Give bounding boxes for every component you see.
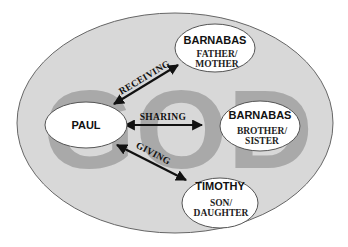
svg-text:SHARING: SHARING <box>140 112 187 122</box>
node-timothy: TIMOTHY SON/ DAUGHTER <box>182 178 258 228</box>
svg-text:PAUL: PAUL <box>71 119 100 131</box>
svg-text:SISTER: SISTER <box>245 136 279 146</box>
svg-text:BARNABAS: BARNABAS <box>184 34 247 46</box>
node-barnabas-parent: BARNABAS FATHER/ MOTHER <box>175 24 255 72</box>
svg-text:FATHER/: FATHER/ <box>197 49 238 59</box>
svg-text:SON/: SON/ <box>210 198 233 208</box>
relationship-diagram: GOD RECEIVING SHARING GIVING PAUL BARNAB… <box>0 0 348 247</box>
node-barnabas-sibling: BARNABAS BROTHER/ SISTER <box>220 101 300 151</box>
svg-text:BARNABAS: BARNABAS <box>229 109 292 121</box>
svg-text:DAUGHTER: DAUGHTER <box>194 208 249 218</box>
svg-text:BROTHER/: BROTHER/ <box>237 126 288 136</box>
node-paul: PAUL <box>45 102 127 148</box>
svg-text:TIMOTHY: TIMOTHY <box>195 180 245 192</box>
svg-text:MOTHER: MOTHER <box>195 59 238 69</box>
